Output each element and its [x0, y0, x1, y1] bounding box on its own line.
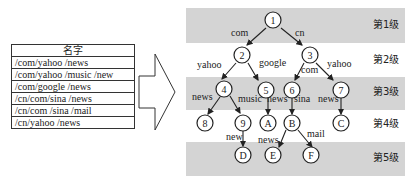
edge-label: news	[258, 134, 279, 145]
edge-label: google	[259, 57, 287, 68]
edge-label: mail	[307, 128, 325, 139]
svg-text:9: 9	[241, 118, 246, 129]
node-E: E	[265, 147, 281, 163]
svg-text:4: 4	[222, 84, 227, 95]
svg-text:3: 3	[308, 50, 313, 61]
svg-text:C: C	[338, 118, 345, 129]
level-label-1: 第1级	[373, 18, 399, 30]
node-C: C	[333, 115, 349, 131]
node-A: A	[260, 115, 276, 131]
level-label-4: 第4级	[373, 117, 399, 129]
node-2: 2	[234, 47, 250, 63]
svg-text:F: F	[308, 150, 314, 161]
trie-diagram: 第1级 第2级 第3级 第4级 第5级 com cn yahoo google …	[0, 0, 415, 183]
node-8: 8	[197, 115, 213, 131]
edge-label: cn	[295, 27, 304, 38]
node-F: F	[303, 147, 319, 163]
level-label-3: 第3级	[373, 85, 399, 97]
node-B: B	[284, 115, 300, 131]
svg-text:7: 7	[339, 85, 344, 96]
node-3: 3	[302, 47, 318, 63]
edge-label: com	[301, 64, 318, 75]
svg-text:A: A	[264, 118, 272, 129]
svg-text:2: 2	[240, 50, 245, 61]
svg-text:E: E	[270, 150, 276, 161]
svg-text:6: 6	[290, 85, 295, 96]
node-9: 9	[235, 115, 251, 131]
level-label-5: 第5级	[373, 151, 399, 163]
svg-text:1: 1	[271, 15, 276, 26]
level-label-2: 第2级	[373, 53, 399, 65]
node-7: 7	[333, 82, 349, 98]
edge-label: yahoo	[327, 58, 351, 69]
svg-text:5: 5	[264, 85, 269, 96]
node-D: D	[235, 147, 251, 163]
svg-text:D: D	[239, 150, 246, 161]
node-1: 1	[265, 12, 281, 28]
svg-text:B: B	[289, 118, 296, 129]
edge-label: com	[231, 27, 248, 38]
node-6: 6	[284, 82, 300, 98]
svg-text:8: 8	[203, 118, 208, 129]
edge-label: news	[192, 91, 213, 102]
transform-arrow-icon	[139, 54, 175, 130]
edge-label: new	[226, 131, 243, 142]
node-4: 4	[216, 81, 232, 97]
edge-label: yahoo	[197, 59, 221, 70]
node-5: 5	[258, 82, 274, 98]
